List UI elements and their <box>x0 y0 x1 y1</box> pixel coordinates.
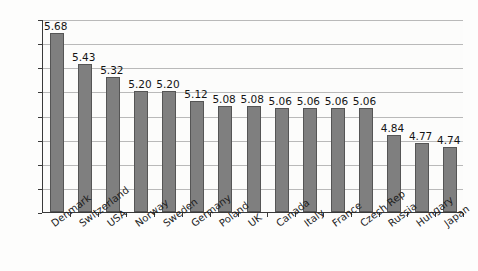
gridline <box>43 20 463 21</box>
bar[interactable] <box>50 33 64 212</box>
bar[interactable] <box>162 91 176 212</box>
bar-value-label: 5.08 <box>212 93 235 105</box>
bar-value-label: 5.06 <box>325 95 348 107</box>
bar-chart: 5.805.605.405.205.004.804.604.404.20 Den… <box>0 0 478 271</box>
gridline <box>43 44 463 45</box>
bar[interactable] <box>134 91 148 212</box>
bar-value-label: 5.20 <box>128 78 151 90</box>
x-tick-mark <box>267 213 268 217</box>
bar-value-label: 5.68 <box>44 20 67 32</box>
bar-value-label: 5.12 <box>184 88 207 100</box>
bar-value-label: 5.06 <box>353 95 376 107</box>
x-tick-label: UK <box>246 212 264 229</box>
bar-value-label: 5.43 <box>72 51 95 63</box>
bar-value-label: 4.84 <box>381 122 404 134</box>
bar-value-label: 5.20 <box>156 78 179 90</box>
bar[interactable] <box>247 106 261 212</box>
bar[interactable] <box>415 143 429 212</box>
bar[interactable] <box>331 108 345 212</box>
bar-value-label: 4.74 <box>437 134 460 146</box>
bar[interactable] <box>275 108 289 212</box>
bar-value-label: 5.32 <box>100 64 123 76</box>
plot-area <box>42 20 463 213</box>
y-tick-mark <box>38 213 42 214</box>
bar-value-label: 4.77 <box>409 130 432 142</box>
bar[interactable] <box>359 108 373 212</box>
bar-value-label: 5.08 <box>241 93 264 105</box>
bar-value-label: 5.06 <box>269 95 292 107</box>
bar[interactable] <box>78 64 92 212</box>
bar-value-label: 5.06 <box>297 95 320 107</box>
